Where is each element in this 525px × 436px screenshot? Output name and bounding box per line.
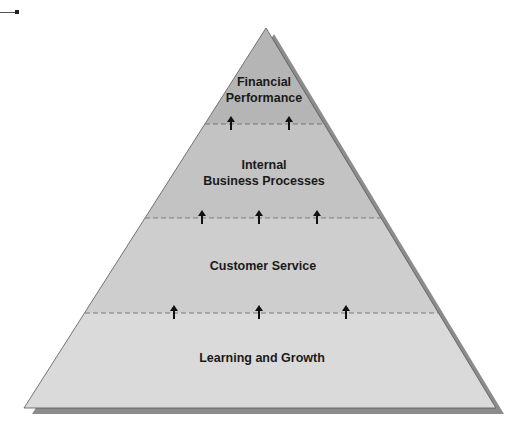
level-label-learning: Learning and Growth	[199, 350, 325, 366]
label-line: Internal	[203, 157, 325, 173]
label-line: Business Processes	[203, 173, 325, 189]
label-line: Learning and Growth	[199, 350, 325, 366]
label-line: Performance	[226, 90, 302, 106]
label-line: Financial	[226, 74, 302, 90]
level-label-financial: Financial Performance	[226, 74, 302, 106]
level-label-internal: Internal Business Processes	[203, 157, 325, 189]
level-label-customer: Customer Service	[210, 258, 316, 274]
pyramid-diagram	[0, 0, 525, 436]
label-line: Customer Service	[210, 258, 316, 274]
corner-mark	[0, 10, 19, 14]
